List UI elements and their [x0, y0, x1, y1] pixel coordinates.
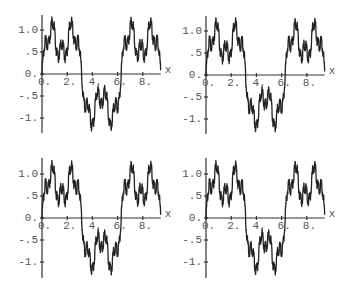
y-tick-label: 1.0 [18, 24, 38, 36]
x-tick-label: 0. [202, 77, 215, 89]
x-tick-label: 8. [303, 220, 316, 232]
x-tick-label: 2. [227, 220, 240, 232]
x-tick-label: 4. [88, 76, 101, 88]
plot-panel-bottom-right: 0.2.4.6.8.1.0.50.-.5-1.x [182, 158, 336, 278]
x-tick-label: 8. [139, 76, 152, 88]
x-tick-label: 2. [63, 220, 76, 232]
y-tick-label: -1. [18, 256, 38, 268]
x-tick-label: 8. [303, 77, 316, 89]
y-tick-label: 0. [189, 212, 202, 224]
y-tick-label: -1. [182, 256, 202, 268]
y-tick-label: -.5 [182, 234, 202, 246]
x-tick-label: 8. [139, 220, 152, 232]
y-tick-label: -.5 [18, 234, 38, 246]
x-tick-label: 2. [63, 76, 76, 88]
plot-panel-top-right: 0.2.4.6.8.1.0.50.-.5-1.x [182, 16, 336, 134]
y-tick-label: -1. [182, 113, 202, 125]
y-tick-label: -.5 [182, 91, 202, 103]
x-tick-label: 4. [252, 220, 265, 232]
y-tick-label: 0. [25, 212, 38, 224]
x-tick-label: 0. [202, 220, 215, 232]
x-tick-label: 2. [227, 77, 240, 89]
figure: 0.2.4.6.8.1.0.50.-.5-1.x 0.2.4.6.8.1.0.5… [0, 0, 351, 290]
x-tick-label: 0. [38, 76, 51, 88]
y-tick-label: -.5 [18, 90, 38, 102]
y-tick-label: .5 [189, 190, 202, 202]
plot-panel-top-left: 0.2.4.6.8.1.0.50.-.5-1.x [18, 15, 172, 133]
x-tick-label: 4. [88, 220, 101, 232]
y-tick-label: -1. [18, 112, 38, 124]
x-tick-label: 0. [38, 220, 51, 232]
y-tick-label: .5 [189, 47, 202, 59]
x-tick-label: 4. [252, 77, 265, 89]
y-tick-label: 0. [25, 68, 38, 80]
y-tick-label: .5 [25, 190, 38, 202]
plot-panel-bottom-left: 0.2.4.6.8.1.0.50.-.5-1.x [18, 158, 172, 278]
x-axis-label: x [165, 64, 172, 76]
x-axis-label: x [165, 208, 172, 220]
x-axis-label: x [329, 208, 336, 220]
y-tick-label: 0. [189, 69, 202, 81]
x-axis-label: x [329, 65, 336, 77]
y-tick-label: .5 [25, 46, 38, 58]
y-tick-label: 1.0 [182, 168, 202, 180]
y-tick-label: 1.0 [182, 25, 202, 37]
y-tick-label: 1.0 [18, 168, 38, 180]
